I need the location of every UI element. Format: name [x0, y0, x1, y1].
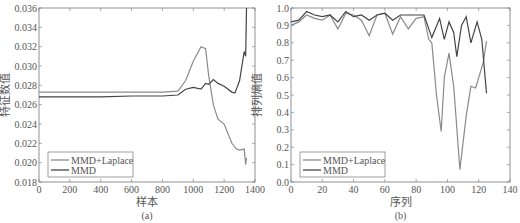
x-tick-label: 60: [380, 184, 390, 195]
panel-caption: (a): [141, 210, 152, 222]
x-tick-label: 400: [93, 184, 108, 195]
chart-panel-a: 02004006008001000120014000.0180.0200.022…: [0, 3, 265, 223]
y-tick-label: 0.3: [277, 124, 290, 135]
x-tick-label: 200: [62, 184, 77, 195]
y-tick-label: 0.4: [277, 107, 290, 118]
x-tick-label: 0: [289, 184, 294, 195]
x-axis-label: 样本: [136, 195, 158, 208]
y-tick-label: 0.036: [15, 3, 38, 14]
y-tick-label: 0.1: [277, 159, 290, 170]
y-tick-label: 0.2: [277, 142, 290, 153]
x-tick-label: 1200: [214, 184, 234, 195]
x-axis-label: 序列: [390, 195, 412, 208]
x-tick-label: 600: [124, 184, 139, 195]
x-tick-label: 100: [440, 184, 455, 195]
y-tick-label: 0.030: [15, 61, 38, 72]
x-tick-label: 800: [155, 184, 170, 195]
panel-caption: (b): [395, 210, 407, 222]
y-tick-label: 0.018: [15, 177, 38, 188]
legend-entry: MMD: [71, 165, 96, 176]
y-tick-label: 1.0: [277, 3, 290, 14]
y-tick-label: 0.028: [15, 80, 38, 91]
x-tick-label: 20: [317, 184, 327, 195]
y-tick-label: 0.024: [15, 119, 38, 130]
x-tick-label: 1400: [245, 184, 265, 195]
x-tick-label: 120: [471, 184, 486, 195]
chart-panel-b: 0204060801001201400.00.10.20.30.40.50.60…: [250, 3, 518, 223]
y-tick-label: 0.026: [15, 99, 38, 110]
y-axis-label: 特征数值: [0, 73, 11, 117]
y-tick-label: 0.0: [277, 177, 290, 188]
y-tick-label: 0.020: [15, 157, 38, 168]
chart-figure: 02004006008001000120014000.0180.0200.022…: [0, 0, 520, 222]
y-tick-label: 0.8: [277, 37, 290, 48]
y-tick-label: 0.5: [277, 90, 290, 101]
x-tick-label: 80: [411, 184, 421, 195]
x-tick-label: 40: [349, 184, 359, 195]
y-tick-label: 0.032: [15, 41, 38, 52]
x-tick-label: 140: [503, 184, 518, 195]
y-tick-label: 0.9: [277, 20, 290, 31]
y-axis-label: 排列熵值: [250, 73, 263, 117]
x-tick-label: 1000: [183, 184, 203, 195]
y-tick-label: 0.034: [15, 22, 38, 33]
legend-entry: MMD: [323, 165, 348, 176]
x-tick-label: 0: [37, 184, 42, 195]
y-tick-label: 0.7: [277, 55, 290, 66]
y-tick-label: 0.022: [15, 138, 38, 149]
y-tick-label: 0.6: [277, 72, 290, 83]
